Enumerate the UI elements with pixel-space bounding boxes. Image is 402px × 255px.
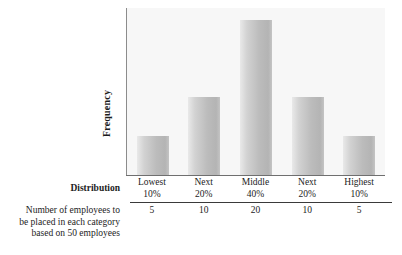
bar-slot	[127, 8, 179, 175]
bar	[240, 20, 272, 175]
bar	[188, 97, 220, 175]
category-label-line2: 20%	[178, 189, 230, 201]
bar-slot	[230, 8, 282, 175]
category-label-line2: 20%	[281, 189, 333, 201]
value-cell: 5	[126, 205, 178, 215]
bar	[343, 136, 375, 175]
category-label: Lowest 10%	[126, 177, 178, 200]
category-label: Next 20%	[281, 177, 333, 200]
value-cell: 20	[230, 205, 282, 215]
bar-slot	[282, 8, 334, 175]
category-label-line1: Highest	[333, 177, 385, 189]
category-label-line1: Next	[178, 177, 230, 189]
category-label-line1: Middle	[230, 177, 282, 189]
distribution-row-label: Distribution	[56, 183, 120, 193]
caption-line2: be placed in each category	[8, 217, 120, 229]
chart-plot-area	[126, 8, 385, 176]
value-row-caption: Number of employees to be placed in each…	[8, 205, 120, 240]
bar-series	[127, 8, 385, 175]
category-label: Middle 40%	[230, 177, 282, 200]
category-label-line2: 10%	[333, 189, 385, 201]
caption-line3: based on 50 employees	[8, 228, 120, 240]
value-cell: 10	[281, 205, 333, 215]
category-label: Highest 10%	[333, 177, 385, 200]
category-label-line1: Lowest	[126, 177, 178, 189]
x-axis-line	[126, 175, 385, 176]
category-label: Next 20%	[178, 177, 230, 200]
bar-slot	[333, 8, 385, 175]
value-row: 5 10 20 10 5	[126, 205, 385, 215]
value-cell: 10	[178, 205, 230, 215]
category-label-row: Lowest 10% Next 20% Middle 40% Next 20% …	[126, 177, 385, 200]
caption-line1: Number of employees to	[8, 205, 120, 217]
y-axis-title-text: Frequency	[102, 89, 113, 136]
category-label-line1: Next	[281, 177, 333, 189]
y-axis-title: Frequency	[100, 58, 114, 168]
table-divider-rule	[130, 202, 392, 203]
bar	[137, 136, 169, 175]
bar-slot	[179, 8, 231, 175]
category-label-line2: 10%	[126, 189, 178, 201]
value-cell: 5	[333, 205, 385, 215]
bar	[292, 97, 324, 175]
category-label-line2: 40%	[230, 189, 282, 201]
